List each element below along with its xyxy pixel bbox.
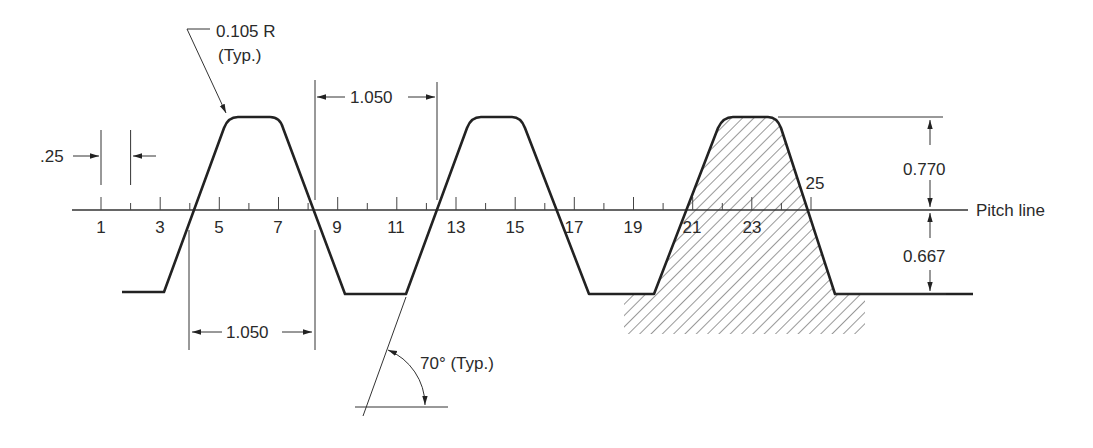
tick-label: 11 <box>387 218 405 237</box>
addendum-label: 0.770 <box>903 160 946 179</box>
radius-label: 0.105 R <box>216 22 276 41</box>
radius-callout: 0.105 R (Typ.) <box>187 22 276 113</box>
tick-spacing-label: .25 <box>40 147 64 166</box>
pitch-top-label: 1.050 <box>350 88 393 107</box>
tick-label: 3 <box>155 218 164 237</box>
tick-label: 9 <box>332 218 341 237</box>
pitch-dimension-top: 1.050 <box>315 80 437 200</box>
tick-label: 1 <box>96 218 105 237</box>
dedendum-label: 0.667 <box>903 247 946 266</box>
pitch-line-label: Pitch line <box>976 201 1045 220</box>
pitch-bottom-label: 1.050 <box>226 323 269 342</box>
tooth-profile <box>122 117 973 294</box>
angle-label: 70° (Typ.) <box>420 354 494 373</box>
tick-label: 21 <box>683 218 702 237</box>
tick-label: 5 <box>214 218 223 237</box>
pitch-dimension-bottom: 1.050 <box>189 230 315 350</box>
tick-label: 13 <box>447 218 466 237</box>
tick-label: 17 <box>565 218 584 237</box>
tick-label: 7 <box>273 218 282 237</box>
thread-profile-diagram: 1 3 5 7 9 11 13 15 17 19 21 23 25 0.105 … <box>0 0 1093 448</box>
radius-typ-label: (Typ.) <box>218 46 261 65</box>
tick-label: 19 <box>624 218 643 237</box>
tick-label: 25 <box>806 174 825 193</box>
tick-label: 23 <box>743 218 762 237</box>
tick-spacing-dimension: .25 <box>40 130 156 185</box>
angle-callout: 70° (Typ.) <box>355 297 494 416</box>
tick-label: 15 <box>506 218 525 237</box>
